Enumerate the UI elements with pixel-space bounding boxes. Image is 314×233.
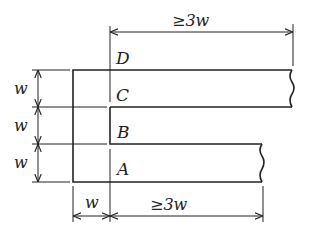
bottom-width-label: w <box>85 193 99 212</box>
left-height-label-1: w <box>14 79 28 98</box>
point-label-d: D <box>115 48 130 68</box>
left-height-label-2: w <box>14 116 28 135</box>
extension-lines <box>32 24 293 222</box>
specimen-outline <box>73 70 294 182</box>
slot-geometry-diagram: ≥3w ≥3w w w w w D C B A <box>0 0 314 233</box>
left-height-label-3: w <box>14 153 28 172</box>
break-line-top <box>290 70 294 107</box>
top-length-label: ≥3w <box>172 11 210 30</box>
point-label-a: A <box>115 159 129 179</box>
break-line-bottom <box>260 144 264 182</box>
point-label-b: B <box>116 122 130 142</box>
dimension-lines <box>38 32 293 216</box>
point-label-c: C <box>116 85 129 105</box>
bottom-length-label: ≥3w <box>150 195 188 214</box>
